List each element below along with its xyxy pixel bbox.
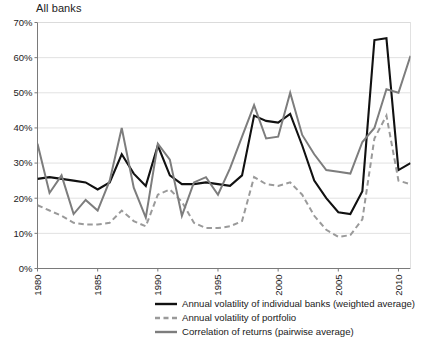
series-line-individual bbox=[38, 38, 411, 214]
tick-marks bbox=[35, 23, 399, 272]
x-tick-label: 1990 bbox=[152, 275, 163, 296]
legend-label: Annual volatility of portfolio bbox=[182, 312, 296, 324]
legend-swatch-individual-icon bbox=[155, 298, 177, 310]
x-axis-tick-labels: 1980198519901995200020052010 bbox=[32, 275, 404, 296]
legend-swatch-portfolio-icon bbox=[155, 312, 177, 324]
axes bbox=[38, 23, 411, 269]
gridlines bbox=[38, 23, 411, 234]
series-line-portfolio bbox=[38, 116, 411, 237]
chart-figure: All banks 0%10%20%30%40%50%60%70% 198019… bbox=[0, 0, 427, 348]
legend-label: Annual volatility of individual banks (w… bbox=[182, 298, 415, 310]
legend-swatch-correlation-icon bbox=[155, 326, 177, 338]
y-tick-label: 50% bbox=[13, 87, 33, 98]
chart-legend: Annual volatility of individual banks (w… bbox=[155, 297, 427, 339]
y-tick-label: 60% bbox=[13, 52, 33, 63]
data-series-layer bbox=[38, 38, 411, 237]
x-tick-label: 2005 bbox=[333, 275, 344, 296]
y-tick-label: 0% bbox=[19, 263, 33, 274]
y-tick-label: 10% bbox=[13, 228, 33, 239]
series-line-correlation bbox=[38, 56, 411, 218]
legend-label: Correlation of returns (pairwise average… bbox=[182, 326, 354, 338]
y-axis-tick-labels: 0%10%20%30%40%50%60%70% bbox=[13, 17, 33, 274]
y-tick-label: 70% bbox=[13, 17, 33, 28]
line-chart-plot: 0%10%20%30%40%50%60%70% 1980198519901995… bbox=[0, 0, 427, 348]
y-tick-label: 30% bbox=[13, 157, 33, 168]
x-tick-label: 2000 bbox=[273, 275, 284, 296]
legend-item-portfolio: Annual volatility of portfolio bbox=[155, 311, 427, 324]
x-tick-label: 1980 bbox=[32, 275, 43, 296]
legend-item-individual: Annual volatility of individual banks (w… bbox=[155, 297, 427, 310]
legend-item-correlation: Correlation of returns (pairwise average… bbox=[155, 325, 427, 338]
y-tick-label: 20% bbox=[13, 193, 33, 204]
x-tick-label: 1985 bbox=[92, 275, 103, 296]
y-tick-label: 40% bbox=[13, 122, 33, 133]
x-tick-label: 1995 bbox=[212, 275, 223, 296]
x-tick-label: 2010 bbox=[393, 275, 404, 296]
